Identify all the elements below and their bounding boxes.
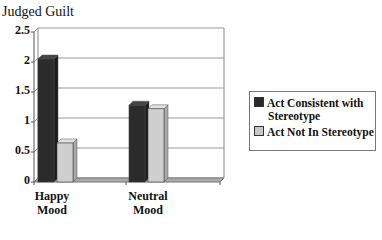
legend-swatch-dark (254, 97, 264, 107)
bar-side (164, 105, 168, 182)
x-label-line: Mood (17, 203, 87, 217)
bar-side (73, 139, 77, 182)
legend-item-not-in: Act Not In Stereotype (254, 126, 374, 139)
bar (148, 109, 164, 182)
bar (57, 143, 73, 182)
bar (129, 105, 145, 182)
x-label-line: Mood (113, 203, 183, 217)
gridline-diag (34, 58, 38, 62)
x-label-line: Neutral (113, 189, 183, 203)
gridline-diag (34, 118, 38, 122)
gridline-diag (34, 88, 38, 92)
x-label-line: Happy (17, 189, 87, 203)
legend: Act Consistent with Stereotype Act Not I… (249, 91, 376, 151)
x-label-happy: Happy Mood (17, 189, 87, 217)
legend-label: Act Consistent with (267, 97, 363, 109)
legend-item-consistent: Act Consistent with Stereotype (254, 97, 363, 123)
legend-label: Act Not In Stereotype (267, 126, 374, 138)
gridline-diag (34, 28, 38, 32)
legend-swatch-light (254, 126, 264, 136)
bar (38, 59, 54, 182)
legend-label: Stereotype (254, 110, 320, 122)
x-label-neutral: Neutral Mood (113, 189, 183, 217)
gridline-diag (34, 148, 38, 152)
